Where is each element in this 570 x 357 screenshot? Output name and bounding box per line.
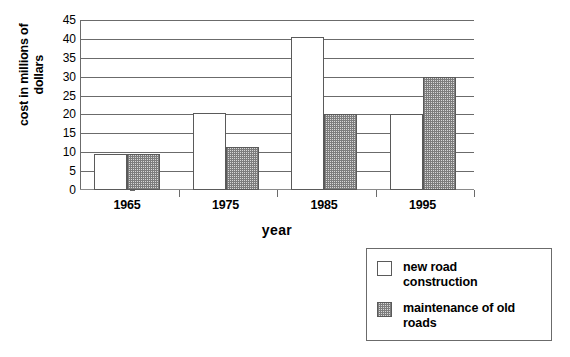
x-tick-label: 1965 [92, 198, 162, 212]
x-tick-mark [277, 190, 278, 197]
bar-group [80, 20, 179, 190]
y-tick-label: 5 [69, 165, 76, 177]
y-tick-label: 35 [63, 52, 76, 64]
legend-label-maintenance: maintenance of old roads [403, 301, 515, 331]
legend-label-new-road: new road construction [403, 260, 478, 290]
x-tick-label: 1975 [191, 198, 261, 212]
y-axis-title: cost in millions of dollars [17, 0, 47, 155]
bar-maintenance-1995 [423, 77, 456, 190]
y-tick-label: 40 [63, 33, 76, 45]
x-tick-label: 1985 [289, 198, 359, 212]
x-tick-mark [179, 190, 180, 197]
bar-maintenance-1975 [226, 147, 259, 190]
y-tick-mark [130, 190, 135, 191]
y-tick-label: 15 [63, 127, 76, 139]
bar-group [277, 20, 376, 190]
legend-item-maintenance: maintenance of old roads [377, 301, 515, 331]
legend: new road construction maintenance of old… [366, 248, 552, 341]
bar-group [179, 20, 278, 190]
y-tick-label: 25 [63, 90, 76, 102]
y-tick-label: 10 [63, 146, 76, 158]
bar-maintenance-1965 [127, 154, 160, 190]
legend-item-new-road: new road construction [377, 260, 478, 290]
bar-group [376, 20, 475, 190]
y-tick-label: 0 [69, 184, 76, 196]
y-axis-tick-labels: 051015202530354045 [52, 14, 76, 190]
legend-swatch-new-road-icon [377, 261, 392, 276]
legend-swatch-maintenance-icon [377, 302, 392, 317]
bar-maintenance-1985 [324, 114, 357, 190]
bar-chart-figure: cost in millions of dollars 051015202530… [0, 0, 570, 357]
x-axis-title: year [80, 222, 474, 238]
bar-new-road-1975 [193, 113, 226, 190]
x-tick-label: 1995 [388, 198, 458, 212]
y-tick-label: 30 [63, 71, 76, 83]
bar-new-road-1985 [291, 37, 324, 190]
bar-new-road-1965 [94, 154, 127, 190]
plot-area [80, 20, 474, 190]
x-tick-mark [376, 190, 377, 197]
bar-new-road-1995 [390, 114, 423, 190]
x-tick-mark [474, 190, 475, 197]
y-tick-label: 45 [63, 14, 76, 26]
y-tick-label: 20 [63, 108, 76, 120]
